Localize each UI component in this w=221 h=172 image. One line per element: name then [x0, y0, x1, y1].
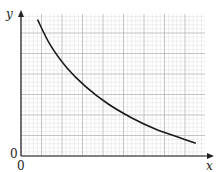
grid-minor — [21, 14, 205, 156]
y-axis-label: y — [6, 8, 13, 20]
chart-canvas — [0, 0, 221, 172]
x-axis-label: x — [206, 160, 213, 172]
data-curve — [38, 20, 196, 144]
x-origin-label: 0 — [17, 160, 25, 172]
y-axis-arrow-icon — [18, 10, 24, 17]
grid-major — [21, 14, 205, 156]
